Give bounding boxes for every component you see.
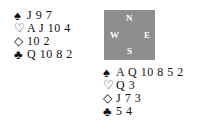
club-icon: ♣ — [103, 105, 116, 118]
compass-table: N W E S — [104, 10, 155, 60]
compass-east-label: E — [144, 31, 150, 40]
south-hand: ♠ A Q 10 8 5 2 ♡ Q 3 ◇ J 7 3 ♣ 5 4 — [103, 66, 184, 118]
compass-west-label: W — [110, 31, 119, 40]
west-hand: ♠ J 9 7 ♡ A J 10 4 ◇ 10 2 ♣ Q 10 8 2 — [14, 9, 73, 61]
compass-south-label: S — [127, 47, 132, 56]
west-clubs-row: ♣ Q 10 8 2 — [14, 48, 73, 61]
south-clubs-row: ♣ 5 4 — [103, 105, 184, 118]
club-icon: ♣ — [14, 48, 27, 61]
south-clubs-cards: 5 4 — [116, 105, 133, 118]
west-clubs-cards: Q 10 8 2 — [27, 48, 73, 61]
compass-north-label: N — [126, 14, 133, 23]
